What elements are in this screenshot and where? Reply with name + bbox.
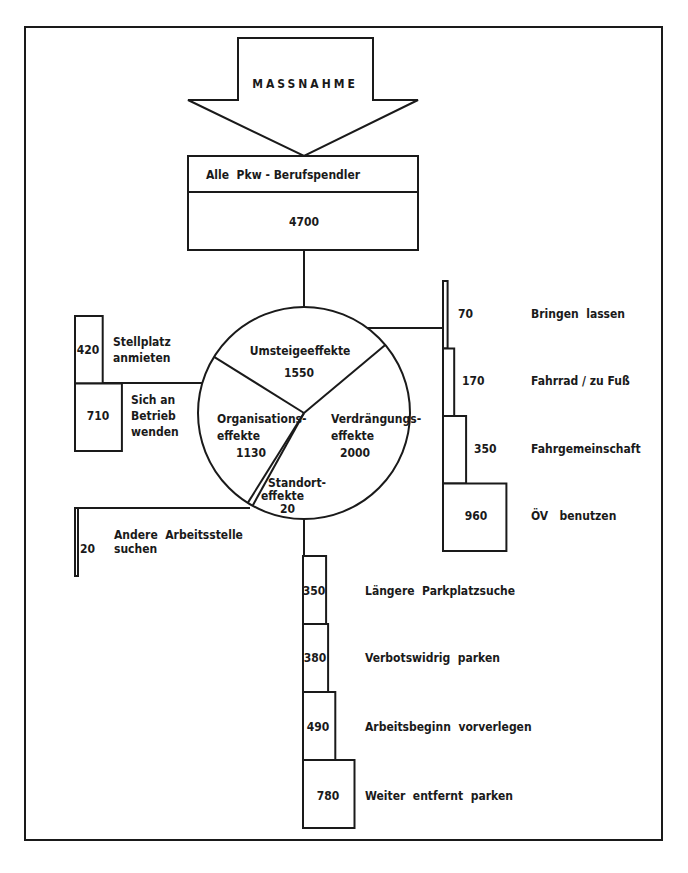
umsteige-label-1: Fahrrad / zu Fuß (531, 374, 630, 388)
verdraengung-value-0: 350 (303, 584, 326, 598)
root-label: Alle Pkw - Berufspendler (206, 168, 361, 182)
pie-label-organisation-1: Organisations- (217, 412, 306, 426)
verdraengung-value-3: 780 (317, 789, 340, 803)
standort-label-0-1: Andere Arbeitsstelle (114, 528, 243, 542)
standort-label-0-2: suchen (114, 542, 157, 556)
umsteige-label-2: Fahrgemeinschaft (531, 442, 641, 456)
pie-label-verdraengung-1: Verdrängungs- (331, 412, 421, 426)
pie-value-standort: 20 (280, 502, 295, 516)
verdraengung-label-3: Weiter entfernt parken (365, 789, 513, 803)
pie-label-verdraengung-2: effekte (331, 429, 374, 443)
organisation-label-1-2: Betrieb (131, 409, 176, 423)
umsteige-value-0: 70 (458, 307, 473, 321)
effects-diagram: MASSNAHME Alle Pkw - Berufspendler 4700 … (0, 0, 688, 873)
measure-arrow (188, 38, 418, 156)
organisation-label-1-1: Sich an (131, 393, 175, 407)
organisation-label-0-1: Stellplatz (113, 335, 171, 349)
verdraengung-label-0: Längere Parkplatzsuche (365, 584, 515, 598)
standort-bar-0 (75, 508, 78, 576)
umsteige-value-1: 170 (462, 374, 485, 388)
pie-value-verdraengung: 2000 (340, 446, 370, 460)
organisation-value-1: 710 (87, 409, 110, 423)
organisation-label-1-3: wenden (131, 425, 179, 439)
umsteige-label-3: ÖV benutzen (531, 508, 616, 523)
organisation-label-0-2: anmieten (113, 351, 170, 365)
umsteige-bar-0 (443, 281, 448, 349)
standort-value-0: 20 (80, 542, 95, 556)
verdraengung-label-2: Arbeitsbeginn vorverlegen (365, 720, 532, 734)
pie-label-standort-1: Standort- (268, 476, 326, 490)
organisation-value-0: 420 (77, 343, 100, 357)
pie-value-organisation: 1130 (236, 446, 266, 460)
pie-value-umsteige: 1550 (284, 366, 314, 380)
root-value: 4700 (289, 215, 319, 229)
verdraengung-value-1: 380 (304, 651, 327, 665)
umsteige-value-3: 960 (465, 509, 488, 523)
pie-label-organisation-2: effekte (217, 429, 260, 443)
umsteige-bar-1 (443, 349, 454, 417)
pie-label-standort-2: effekte (261, 489, 304, 503)
umsteige-value-2: 350 (474, 442, 497, 456)
umsteige-bar-2 (443, 416, 466, 484)
pie-label-umsteige: Umsteigeeffekte (250, 344, 351, 358)
verdraengung-label-1: Verbotswidrig parken (365, 651, 500, 665)
umsteige-label-0: Bringen lassen (531, 307, 625, 321)
measure-label: MASSNAHME (252, 77, 358, 91)
verdraengung-value-2: 490 (307, 720, 330, 734)
